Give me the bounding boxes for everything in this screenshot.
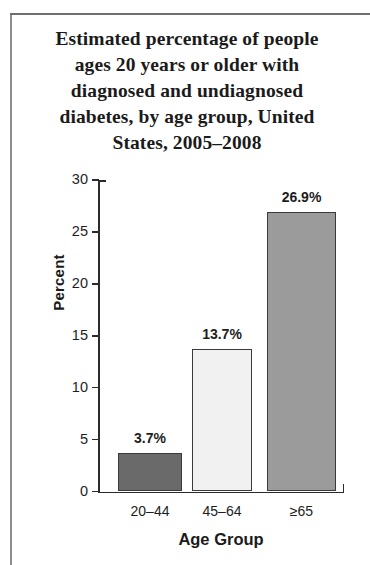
y-axis-tick-label: 5	[48, 431, 88, 447]
y-axis-tick	[92, 439, 99, 441]
y-axis-tick	[92, 491, 99, 493]
y-axis-tick-label: 10	[48, 379, 88, 395]
bar-value-label: 3.7%	[103, 430, 197, 446]
chart-figure: Estimated percentage of people ages 20 y…	[0, 0, 370, 565]
plot-area: 051015202530 3.7%13.7%26.9% 20–4445–64≥6…	[0, 0, 370, 565]
y-axis-title: Percent	[50, 223, 67, 343]
bar-value-label: 13.7%	[177, 326, 267, 342]
bar-value-label: 26.9%	[252, 189, 351, 205]
y-axis-tick	[92, 335, 99, 337]
bar	[118, 453, 182, 491]
y-axis-tick	[92, 387, 99, 389]
bar	[267, 212, 336, 491]
x-axis-title: Age Group	[98, 530, 344, 549]
y-axis-tick-label: 30	[48, 171, 88, 187]
x-axis-tick-label: ≥65	[247, 503, 356, 519]
x-axis-line	[98, 492, 344, 494]
y-axis-tick-label: 0	[48, 483, 88, 499]
y-axis-tick	[92, 283, 99, 285]
y-axis-tick	[92, 179, 99, 181]
x-axis-end-cap	[343, 484, 345, 493]
y-axis-top-cap	[98, 180, 106, 182]
bar	[192, 349, 252, 491]
y-axis-tick	[92, 231, 99, 233]
